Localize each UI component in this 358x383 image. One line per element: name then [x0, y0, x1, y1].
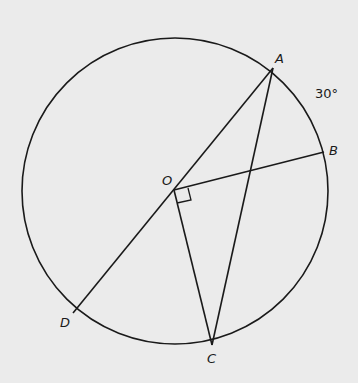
segment-ob [174, 152, 324, 190]
label-d: D [60, 315, 70, 330]
segment-oc [174, 190, 212, 345]
label-o: O [162, 173, 172, 188]
segment-ac [212, 68, 273, 345]
segment-ad [73, 68, 273, 313]
label-b: B [329, 143, 338, 158]
label-c: C [207, 351, 217, 366]
right-angle-marker [177, 188, 191, 203]
circle-diagram: A B C D O 30° [0, 0, 358, 383]
arc-label-30: 30° [315, 86, 338, 101]
label-a: A [274, 51, 284, 66]
